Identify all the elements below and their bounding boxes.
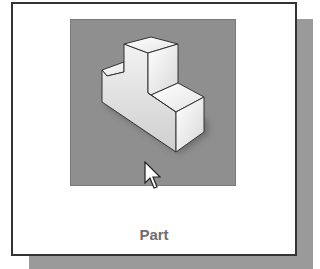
new-document-panel: Part <box>11 2 297 256</box>
part-label: Part <box>13 226 295 243</box>
arrow-cursor-icon <box>144 161 164 191</box>
